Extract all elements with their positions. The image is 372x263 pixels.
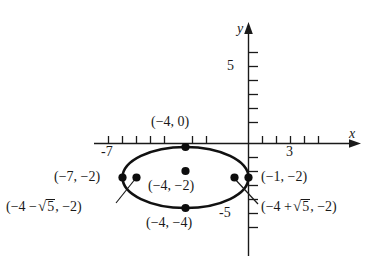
- ellipse-figure: y x 5 -5 -7 3 (−4, 0) (−7, −2) (−4, −2) …: [0, 0, 372, 263]
- y-axis-label: y: [237, 22, 243, 36]
- x-tick-label-minus7: -7: [101, 145, 113, 159]
- leader-line-focus-right: [234, 178, 258, 204]
- y-axis-ticks: [249, 53, 259, 228]
- y-axis-arrowhead: [244, 22, 253, 34]
- label-focus-right: (−4 +√5, −2): [261, 199, 337, 214]
- radical-left: √5: [37, 199, 55, 214]
- label-focus-left-suffix: , −2): [55, 199, 82, 214]
- label-focus-right-prefix: (−4 +: [261, 199, 292, 214]
- point-right-vertex: [244, 173, 252, 181]
- label-top-vertex: (−4, 0): [151, 115, 189, 129]
- point-left-vertex: [118, 173, 126, 181]
- label-focus-left-prefix: (−4 −: [6, 199, 37, 214]
- point-top-vertex: [181, 143, 189, 151]
- y-tick-label-5: 5: [227, 59, 234, 73]
- label-center: (−4, −2): [148, 179, 194, 193]
- x-tick-label-3: 3: [286, 145, 293, 159]
- label-focus-left: (−4 −√5, −2): [6, 199, 82, 214]
- point-bottom-vertex: [181, 204, 189, 212]
- y-axis: [244, 22, 253, 256]
- radicand-left: 5: [46, 199, 55, 214]
- leader-line-focus-left: [116, 178, 136, 203]
- x-axis-label: x: [349, 127, 355, 141]
- radicand-right: 5: [301, 199, 310, 214]
- x-axis: [94, 139, 361, 148]
- x-axis-ticks: [109, 136, 319, 144]
- label-left-vertex: (−7, −2): [54, 170, 100, 184]
- label-right-vertex: (−1, −2): [261, 170, 307, 184]
- point-focus-left: [132, 173, 140, 181]
- point-focus-right: [230, 173, 238, 181]
- point-center: [181, 167, 189, 175]
- radical-sign-right: √: [293, 199, 301, 214]
- label-bottom-vertex: (−4, −4): [146, 216, 192, 230]
- y-tick-label-minus5: -5: [219, 206, 231, 220]
- radical-sign-left: √: [38, 199, 46, 214]
- label-focus-right-suffix: , −2): [310, 199, 337, 214]
- radical-right: √5: [292, 199, 310, 214]
